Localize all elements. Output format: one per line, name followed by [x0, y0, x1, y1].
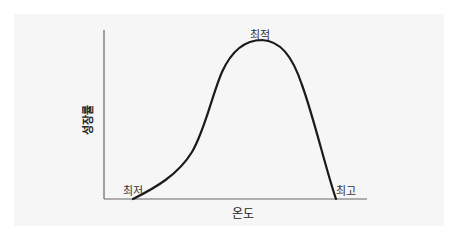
opt-label: 최적 — [250, 26, 270, 42]
growth-curve — [133, 40, 336, 199]
y-axis-label: 성장률 — [79, 105, 95, 135]
x-axis-label: 온도 — [232, 204, 254, 221]
min-label: 최저 — [123, 182, 143, 198]
max-label: 최고 — [336, 182, 356, 198]
chart-plot — [0, 0, 455, 237]
